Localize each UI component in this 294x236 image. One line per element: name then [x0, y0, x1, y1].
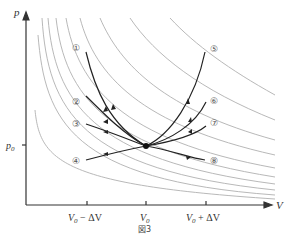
svg-text:③: ③ — [72, 119, 80, 129]
svg-text:⑥: ⑥ — [210, 96, 218, 106]
y-axis-label: p — [13, 6, 20, 18]
figure-caption: 図3 — [138, 225, 151, 234]
x-axis-label: V — [276, 199, 284, 211]
x-tick-v0-plus: V0 + ΔV — [186, 212, 221, 225]
svg-text:②: ② — [72, 97, 80, 107]
svg-text:⑤: ⑤ — [210, 44, 218, 54]
x-tick-v0: V0 — [140, 212, 150, 225]
y-tick-p0: p0 — [5, 140, 15, 153]
svg-text:①: ① — [72, 43, 80, 53]
pv-diagram: ① ② ③ ④ ⑤ ⑥ ⑦ ⑧ p V p0 V0 − ΔV V0 V0 + Δ… — [0, 0, 294, 236]
x-tick-v0-minus: V0 − ΔV — [68, 212, 103, 225]
axes — [22, 12, 272, 208]
svg-text:⑧: ⑧ — [210, 156, 218, 166]
background-curves — [35, 18, 275, 199]
svg-text:⑦: ⑦ — [210, 118, 218, 128]
center-point — [143, 143, 149, 149]
svg-text:④: ④ — [72, 156, 80, 166]
